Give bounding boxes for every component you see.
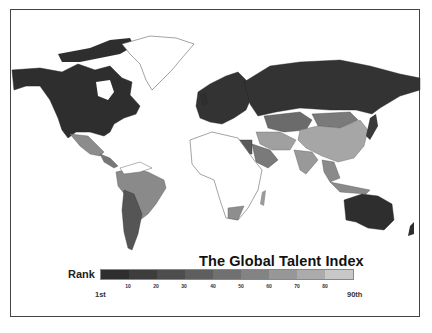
region-madagascar bbox=[260, 190, 266, 206]
legend-segment-4 bbox=[185, 270, 213, 279]
region-new-zealand bbox=[408, 222, 414, 236]
region-southeast-asia bbox=[322, 160, 340, 182]
legend-tick: 20 bbox=[153, 283, 159, 289]
legend-tick: 60 bbox=[266, 283, 272, 289]
legend-tick: 50 bbox=[238, 283, 244, 289]
legend-end-label: 90th bbox=[347, 290, 362, 299]
region-japan bbox=[366, 114, 378, 140]
legend-tick: 80 bbox=[322, 283, 328, 289]
legend-segment-7 bbox=[269, 270, 297, 279]
legend-segment-1 bbox=[101, 270, 129, 279]
region-indonesia bbox=[330, 182, 370, 194]
legend-segment-5 bbox=[213, 270, 241, 279]
region-mexico bbox=[70, 134, 104, 156]
region-russia bbox=[244, 60, 420, 116]
legend-tick: 40 bbox=[210, 283, 216, 289]
legend-segment-3 bbox=[157, 270, 185, 279]
legend-segment-8 bbox=[297, 270, 325, 279]
region-north-america bbox=[12, 64, 140, 138]
legend-label: Rank bbox=[68, 268, 95, 280]
region-arctic-islands bbox=[58, 38, 134, 62]
legend-start-label: 1st bbox=[95, 290, 106, 299]
legend-color-bar bbox=[100, 269, 354, 280]
legend-tick: 30 bbox=[181, 283, 187, 289]
legend-tick: 10 bbox=[125, 283, 131, 289]
region-central-america bbox=[100, 154, 118, 168]
legend-segment-2 bbox=[129, 270, 157, 279]
chart-title: The Global Talent Index bbox=[199, 253, 364, 269]
region-australia bbox=[344, 194, 394, 230]
region-india bbox=[294, 150, 318, 174]
region-greenland bbox=[122, 36, 194, 90]
legend-tick: 70 bbox=[294, 283, 300, 289]
legend-segment-6 bbox=[241, 270, 269, 279]
legend-segment-9 bbox=[325, 270, 353, 279]
